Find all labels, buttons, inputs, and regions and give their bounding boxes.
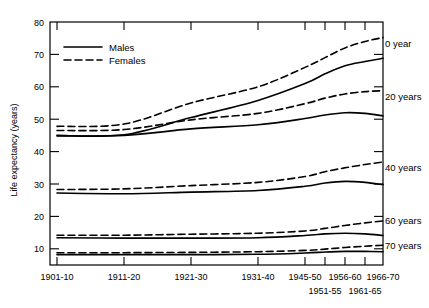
series-annotation-a60: 60 years [385, 215, 422, 226]
series-annotation-a40: 40 years [385, 162, 422, 173]
x-tick-label: 1931-40 [241, 272, 274, 282]
x-tick-label: 1951-55 [308, 286, 341, 296]
y-tick-label: 20 [34, 212, 44, 222]
series-annotation-a20: 20 years [385, 91, 422, 102]
y-tick-label: 40 [34, 147, 44, 157]
x-tick-label: 1966-70 [366, 272, 399, 282]
x-tick-label: 1945-50 [288, 272, 321, 282]
x-tick-label: 1956-60 [328, 272, 361, 282]
y-tick-label: 50 [34, 115, 44, 125]
chart-canvas: 1020304050607080 1901-101911-201921-3019… [0, 0, 429, 308]
x-tick-label: 1901-10 [40, 272, 73, 282]
y-tick-label: 10 [34, 244, 44, 254]
y-axis-title-text: Life expectancy (years) [9, 103, 19, 196]
series-annotation-a70: 70 years [385, 240, 422, 251]
y-tick-label: 60 [34, 82, 44, 92]
x-tick-label: 1911-20 [108, 272, 140, 282]
y-tick-label: 30 [34, 180, 44, 190]
legend-label-males: Males [109, 42, 135, 53]
y-tick-label: 70 [34, 50, 44, 60]
life-expectancy-chart: 1020304050607080 1901-101911-201921-3019… [0, 0, 429, 308]
series-annotation-a0: 0 year [385, 38, 411, 49]
x-tick-label: 1961-65 [348, 286, 381, 296]
x-tick-label: 1921-30 [174, 272, 207, 282]
y-tick-label: 80 [34, 18, 44, 28]
legend-label-females: Females [109, 55, 146, 66]
y-axis-title: Life expectancy (years) [9, 103, 19, 196]
